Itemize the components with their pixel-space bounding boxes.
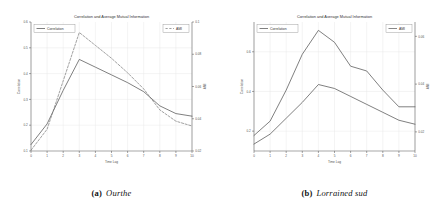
y-tick-label-right: 0.1: [195, 20, 200, 24]
y-tick-label-right: 0.04: [195, 117, 201, 121]
caption-b-text: Lorrained sud: [316, 188, 367, 198]
y-axis-title-right: AMI: [426, 84, 430, 90]
y-tick-label-left: 0.6: [246, 50, 251, 54]
chart-title: Correlation and Average Mutual Informati…: [74, 14, 149, 19]
caption-a: (a) Ourthe: [0, 176, 223, 210]
x-tick-label: 7: [366, 154, 368, 158]
y-tick-label-left: 0.4: [23, 72, 28, 76]
plot-a: Correlation and Average Mutual Informati…: [0, 0, 223, 176]
y-axis-title-left: Correlation: [17, 78, 21, 94]
y-tick-label-left: 0.4: [246, 90, 251, 94]
legend-ami-label: AMI: [176, 27, 182, 31]
x-tick-label: 2: [285, 154, 287, 158]
caption-a-label: (a): [92, 188, 103, 198]
plot-b: Correlation and Average Mutual Informati…: [223, 0, 446, 176]
x-tick-label: 4: [318, 154, 320, 158]
caption-row: (a) Ourthe (b) Lorrained sud: [0, 176, 447, 210]
x-tick-label: 6: [350, 154, 352, 158]
legend-correlation-label: Correlation: [47, 27, 64, 31]
y-axis-title-left: Correlation: [240, 78, 244, 94]
y-tick-label-right: 0.06: [195, 85, 201, 89]
x-tick-label: 6: [127, 154, 129, 158]
chart-a-svg: Correlation and Average Mutual Informati…: [0, 0, 223, 176]
x-tick-label: 1: [269, 154, 271, 158]
caption-b-label: (b): [301, 188, 312, 198]
legend-ami-label: AMI: [399, 27, 405, 31]
x-tick-label: 0: [30, 154, 32, 158]
y-tick-label-right: 0.06: [418, 35, 424, 39]
y-tick-label-left: 0.3: [23, 98, 28, 102]
caption-a-text: Ourthe: [106, 188, 131, 198]
x-tick-label: 1: [46, 154, 48, 158]
y-axis-title-right: AMI: [203, 84, 207, 90]
x-axis-title: Time Lag: [105, 160, 118, 164]
y-tick-label-left: 0.2: [246, 129, 251, 133]
x-tick-label: 7: [143, 154, 145, 158]
x-tick-label: 5: [334, 154, 336, 158]
x-tick-label: 3: [78, 154, 80, 158]
x-tick-label: 10: [413, 154, 417, 158]
y-tick-label-right: 0.02: [418, 130, 424, 134]
panel-a: Correlation and Average Mutual Informati…: [0, 0, 223, 176]
x-tick-label: 0: [253, 154, 255, 158]
x-tick-label: 3: [301, 154, 303, 158]
legend-correlation-label: Correlation: [270, 27, 287, 31]
x-tick-label: 9: [398, 154, 400, 158]
caption-b: (b) Lorrained sud: [223, 176, 446, 210]
x-tick-label: 8: [159, 154, 161, 158]
x-tick-label: 9: [175, 154, 177, 158]
panel-b: Correlation and Average Mutual Informati…: [223, 0, 446, 176]
x-tick-label: 2: [62, 154, 64, 158]
x-tick-label: 8: [382, 154, 384, 158]
y-tick-label-left: 0.6: [23, 20, 28, 24]
x-axis-title: Time Lag: [328, 160, 341, 164]
x-tick-label: 4: [95, 154, 97, 158]
y-tick-label-left: 0.5: [23, 46, 28, 50]
y-tick-label-right: 0.08: [195, 52, 201, 56]
chart-b-svg: Correlation and Average Mutual Informati…: [223, 0, 446, 176]
y-tick-label-left: 0.1: [23, 149, 28, 153]
y-tick-label-left: 0.2: [23, 123, 28, 127]
panels-row: Correlation and Average Mutual Informati…: [0, 0, 447, 176]
x-tick-label: 10: [190, 154, 194, 158]
chart-title: Correlation and Average Mutual Informati…: [297, 14, 372, 19]
y-tick-label-right: 0.02: [195, 149, 201, 153]
figure-two-panel-correlation-ami: Correlation and Average Mutual Informati…: [0, 0, 447, 210]
y-tick-label-right: 0.04: [418, 82, 424, 86]
x-tick-label: 5: [111, 154, 113, 158]
